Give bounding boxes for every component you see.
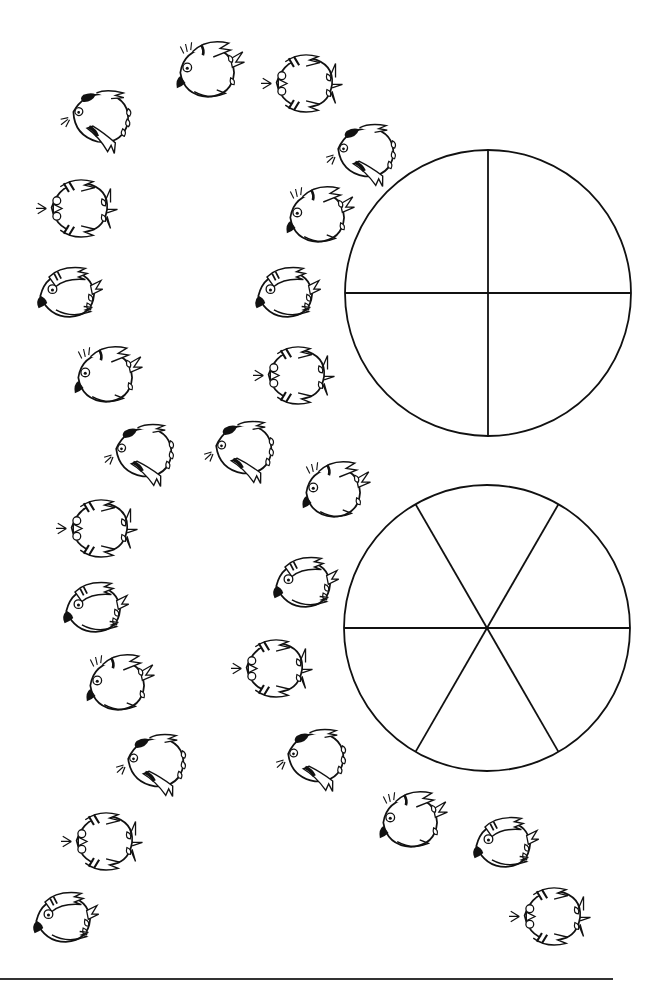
pie-quarters [345, 150, 631, 436]
pie-charts [0, 0, 645, 986]
footer-rule [0, 978, 613, 980]
worksheet-page [0, 0, 645, 986]
pie-sixths [344, 485, 630, 771]
